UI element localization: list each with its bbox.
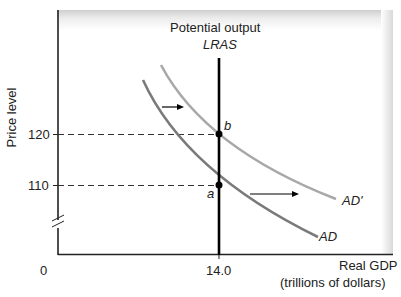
origin-label: 0 [40, 263, 47, 278]
ad-prime-curve [161, 65, 336, 199]
potential-output-label: Potential output [170, 20, 260, 35]
ad-label: AD [319, 229, 337, 244]
shift-arrow-icon [162, 104, 184, 110]
ad-curve [143, 80, 318, 237]
point-b [216, 131, 223, 138]
lras-label: LRAS [203, 37, 237, 52]
x-axis-title-line1: Real GDP [339, 258, 398, 273]
point-a-label: a [207, 186, 214, 201]
ad-prime-label: AD' [342, 193, 363, 208]
shift-arrow-icon [250, 191, 299, 197]
y-tick-label-120: 120 [28, 127, 50, 142]
point-a [216, 182, 223, 189]
y-axis-title: Price level [4, 88, 19, 148]
chart-svg [0, 0, 401, 297]
y-tick-label-110: 110 [28, 178, 49, 193]
x-tick-label-14: 14.0 [206, 263, 231, 278]
x-axis-title-line2: (trillions of dollars) [280, 275, 385, 290]
point-b-label: b [224, 118, 231, 133]
